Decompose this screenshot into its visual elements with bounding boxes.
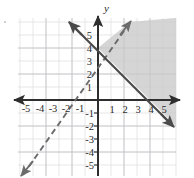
x-tick-label-3: 3 (135, 104, 140, 115)
x-tick-label-neg4: -4 (36, 103, 45, 114)
x-tick-label-4: 4 (148, 104, 154, 115)
x-tick-label-neg3: -3 (49, 103, 58, 114)
y-tick-label-3: 3 (87, 56, 92, 67)
x-tick-label-1: 1 (109, 104, 114, 115)
y-tick-label-4: 4 (87, 43, 93, 54)
y-tick-label-2: 2 (87, 69, 92, 80)
y-tick-label-neg1: -1 (85, 108, 94, 119)
y-tick-label-1: 1 (87, 82, 92, 93)
dashed-line-arrow-lower (21, 161, 33, 176)
solid-line-arrow-upper (69, 22, 82, 35)
y-axis-label: y (103, 2, 109, 14)
y-tick-label-neg5: -5 (85, 160, 94, 171)
page-speck (4, 21, 6, 23)
y-tick-label-neg4: -4 (85, 147, 94, 158)
x-tick-label-neg2: -2 (62, 103, 71, 114)
y-tick-label-neg3: -3 (85, 134, 94, 145)
graph-canvas: y -5 -4 -3 -2 -1 1 2 3 4 5 5 4 3 2 1 -1 … (0, 0, 194, 178)
coordinate-plane-figure: y -5 -4 -3 -2 -1 1 2 3 4 5 5 4 3 2 1 -1 … (0, 0, 194, 178)
x-tick-label-2: 2 (122, 104, 127, 115)
x-tick-label-5: 5 (161, 104, 166, 115)
x-tick-label-neg1: -1 (76, 103, 85, 114)
y-tick-label-5: 5 (87, 30, 92, 41)
y-tick-label-neg2: -2 (85, 121, 94, 132)
x-tick-label-neg5: -5 (22, 103, 31, 114)
